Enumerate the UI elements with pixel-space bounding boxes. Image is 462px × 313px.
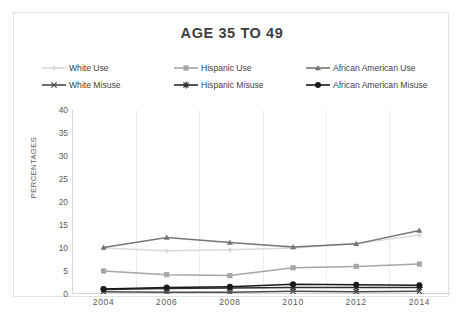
chart-figure: AGE 35 TO 49 White UseHispanic UseAfrica…	[13, 12, 449, 297]
legend-item-white-use[interactable]: White Use	[42, 59, 174, 76]
x-tick-label: 2010	[263, 297, 323, 307]
series-white-use	[101, 233, 422, 254]
y-tick-label: 5	[44, 266, 68, 276]
y-tick-label: 30	[44, 151, 68, 161]
legend-label: Hispanic Misuse	[201, 80, 264, 90]
legend-label: African American Misuse	[333, 80, 428, 90]
series-african-american-misuse	[101, 281, 423, 292]
x-tick-label: 2012	[326, 297, 386, 307]
series-african-american-use	[101, 228, 423, 250]
plot-area	[72, 110, 451, 294]
y-tick-label: 10	[44, 243, 68, 253]
x-tick-label: 2006	[137, 297, 197, 307]
legend-swatch-icon	[174, 80, 198, 90]
y-tick-label: 15	[44, 220, 68, 230]
legend-swatch-icon	[42, 80, 66, 90]
legend-item-african-american-misuse[interactable]: African American Misuse	[306, 76, 438, 93]
y-tick-label: 35	[44, 128, 68, 138]
legend-item-hispanic-misuse[interactable]: Hispanic Misuse	[174, 76, 306, 93]
legend-swatch-icon	[306, 63, 330, 73]
x-tick-label: 2008	[200, 297, 260, 307]
legend-label: African American Use	[333, 63, 416, 73]
legend-label: White Misuse	[69, 80, 121, 90]
y-axis-tick-labels: 0510152025303540	[42, 110, 68, 294]
legend-label: White Use	[69, 63, 109, 73]
legend-swatch-icon	[42, 63, 66, 73]
y-tick-label: 25	[44, 174, 68, 184]
chart-legend: White UseHispanic UseAfrican American Us…	[42, 59, 438, 93]
legend-swatch-icon	[306, 80, 330, 90]
x-tick-label: 2004	[74, 297, 134, 307]
chart-title: AGE 35 TO 49	[14, 25, 450, 41]
y-axis-title: PERCENTAGES	[29, 123, 38, 213]
y-tick-label: 40	[44, 105, 68, 115]
legend-item-hispanic-use[interactable]: Hispanic Use	[174, 59, 306, 76]
legend-item-white-misuse[interactable]: White Misuse	[42, 76, 174, 93]
series-hispanic-use	[101, 262, 422, 279]
legend-swatch-icon	[174, 63, 198, 73]
y-tick-label: 20	[44, 197, 68, 207]
series-layer	[72, 110, 451, 294]
legend-label: Hispanic Use	[201, 63, 252, 73]
legend-item-african-american-use[interactable]: African American Use	[306, 59, 438, 76]
x-tick-label: 2014	[389, 297, 449, 307]
y-tick-label: 0	[44, 289, 68, 299]
x-axis-tick-labels: 200420062008201020122014	[72, 297, 451, 311]
